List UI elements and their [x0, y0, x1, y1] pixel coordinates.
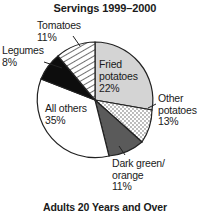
- chart-caption: Adults 20 Years and Over: [0, 201, 210, 213]
- pie-label-dark-green-orange-percent: 11%: [112, 181, 165, 193]
- pie-label-legumes-name: Legumes: [2, 44, 44, 56]
- pie-label-all-others: All others 35%: [45, 103, 87, 126]
- pie-label-other-potatoes-line1: Other: [158, 92, 183, 104]
- pie-label-tomatoes: Tomatoes 11%: [37, 20, 81, 43]
- pie-label-legumes-percent: 8%: [2, 57, 44, 69]
- pie-label-fried-potatoes-line1: Fried: [99, 58, 122, 70]
- pie-chart-figure: Servings 1999–2000: [0, 0, 210, 218]
- pie-label-legumes: Legumes 8%: [2, 45, 44, 68]
- pie-label-all-others-percent: 35%: [45, 115, 87, 127]
- pie-label-fried-potatoes-percent: 22%: [99, 82, 138, 94]
- pie-label-fried-potatoes-line2: potatoes: [99, 70, 138, 82]
- pie-label-fried-potatoes: Fried potatoes 22%: [99, 58, 138, 94]
- pie-label-other-potatoes-percent: 13%: [158, 116, 197, 128]
- pie-label-tomatoes-name: Tomatoes: [37, 19, 81, 31]
- pie-label-tomatoes-percent: 11%: [37, 32, 81, 44]
- pie-label-dark-green-orange: Dark green/ orange 11%: [112, 158, 165, 193]
- pie-label-dark-green-orange-line1: Dark green/: [112, 157, 165, 169]
- pie-label-other-potatoes: Other potatoes 13%: [158, 93, 197, 128]
- pie-label-all-others-name: All others: [45, 102, 87, 114]
